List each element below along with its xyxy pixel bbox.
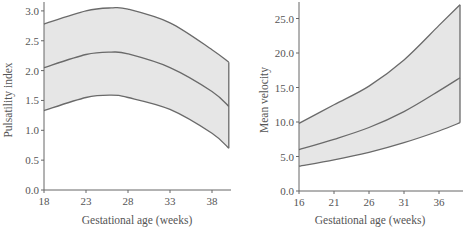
- chart-canvas: 0.00.51.01.52.02.53.01823283338 Gestatio…: [0, 0, 464, 232]
- mean-velocity-chart: 0.05.010.015.020.025.01621263136 Gestati…: [258, 2, 463, 227]
- y-axis-title: Mean velocity: [258, 67, 271, 133]
- x-tick-label: 33: [165, 195, 177, 207]
- y-tick-label: 0.0: [280, 185, 294, 197]
- y-tick-label: 1.0: [25, 124, 39, 136]
- x-tick-label: 26: [364, 196, 376, 208]
- x-tick-label: 38: [207, 195, 219, 207]
- x-tick-label: 36: [434, 196, 446, 208]
- y-tick-label: 10.0: [275, 116, 295, 128]
- x-tick-label: 28: [123, 195, 135, 207]
- y-tick-label: 5.0: [280, 151, 294, 163]
- reference-band: [44, 7, 229, 148]
- pulsatility-index-chart: 0.00.51.01.52.02.53.01823283338 Gestatio…: [2, 2, 231, 227]
- y-axis-title: Pulsatility index: [2, 62, 15, 137]
- y-tick-label: 15.0: [275, 82, 295, 94]
- y-tick-label: 0.5: [25, 154, 39, 166]
- x-tick-label: 16: [294, 196, 306, 208]
- y-tick-label: 2.5: [25, 35, 39, 47]
- x-tick-label: 31: [399, 196, 410, 208]
- x-tick-label: 23: [81, 195, 93, 207]
- x-tick-label: 21: [329, 196, 340, 208]
- x-axis-title: Gestational age (weeks): [82, 214, 193, 227]
- y-tick-label: 25.0: [275, 13, 295, 25]
- y-tick-label: 2.0: [25, 65, 39, 77]
- y-tick-label: 3.0: [25, 5, 39, 17]
- x-axis-title: Gestational age (weeks): [315, 214, 426, 227]
- x-tick-label: 18: [39, 195, 51, 207]
- y-tick-label: 1.5: [25, 94, 39, 106]
- y-tick-label: 0.0: [25, 184, 39, 196]
- y-tick-label: 20.0: [275, 47, 295, 59]
